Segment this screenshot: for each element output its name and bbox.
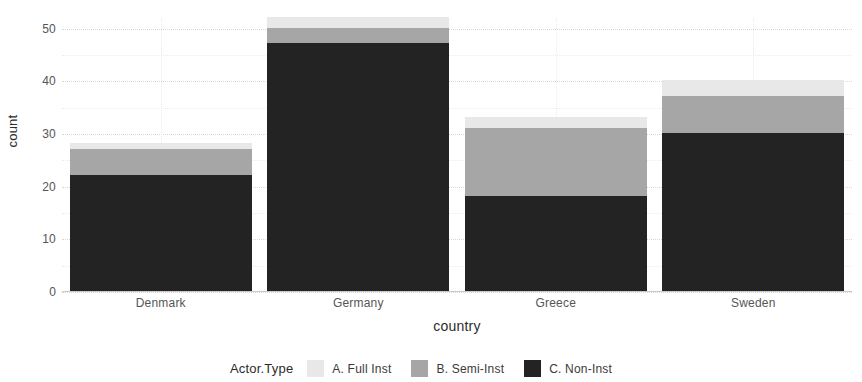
y-axis-tick-labels: 01020304050 (20, 0, 56, 382)
bar-segment[interactable] (267, 28, 449, 44)
plot-panel (62, 18, 852, 292)
bar-group-sweden[interactable] (662, 80, 844, 291)
legend-title: Actor.Type (230, 361, 293, 376)
gridline-major (62, 292, 852, 293)
legend-swatch-icon (307, 360, 324, 377)
y-tick-label: 30 (20, 127, 56, 141)
bar-segment[interactable] (70, 175, 252, 291)
legend-items: A. Full InstB. Semi-InstC. Non-Inst (307, 360, 632, 377)
bar-segment[interactable] (662, 133, 844, 291)
x-tick-label: Germany (333, 296, 384, 310)
bar-segment[interactable] (70, 149, 252, 175)
y-tick-label: 10 (20, 232, 56, 246)
bar-segment[interactable] (267, 43, 449, 291)
y-tick-label: 0 (20, 285, 56, 299)
bar-segment[interactable] (662, 96, 844, 133)
legend-label: C. Non-Inst (549, 362, 612, 376)
bar-segment[interactable] (465, 128, 647, 197)
bar-segment[interactable] (465, 196, 647, 291)
legend-swatch-icon (411, 360, 428, 377)
y-tick-label: 20 (20, 180, 56, 194)
x-tick-label: Denmark (136, 296, 186, 310)
legend-item[interactable]: C. Non-Inst (524, 360, 612, 377)
bar-segment[interactable] (662, 80, 844, 96)
y-tick-label: 50 (20, 22, 56, 36)
y-axis-title: count (5, 128, 20, 148)
bars-layer (62, 18, 852, 291)
x-tick-label: Greece (535, 296, 576, 310)
legend-item[interactable]: B. Semi-Inst (411, 360, 504, 377)
bar-group-denmark[interactable] (70, 143, 252, 291)
bar-segment[interactable] (465, 117, 647, 128)
x-axis-tick-labels: DenmarkGermanyGreeceSweden (62, 296, 852, 316)
bar-group-germany[interactable] (267, 17, 449, 291)
legend-item[interactable]: A. Full Inst (307, 360, 391, 377)
x-tick-label: Sweden (731, 296, 776, 310)
legend-label: A. Full Inst (332, 362, 391, 376)
legend-label: B. Semi-Inst (436, 362, 504, 376)
chart-legend: Actor.Type A. Full InstB. Semi-InstC. No… (0, 360, 862, 377)
bar-segment[interactable] (267, 17, 449, 28)
y-tick-label: 40 (20, 74, 56, 88)
stacked-bar-chart: count 01020304050 DenmarkGermanyGreeceSw… (0, 0, 862, 382)
x-axis-title: country (62, 318, 852, 334)
legend-swatch-icon (524, 360, 541, 377)
bar-group-greece[interactable] (465, 117, 647, 291)
